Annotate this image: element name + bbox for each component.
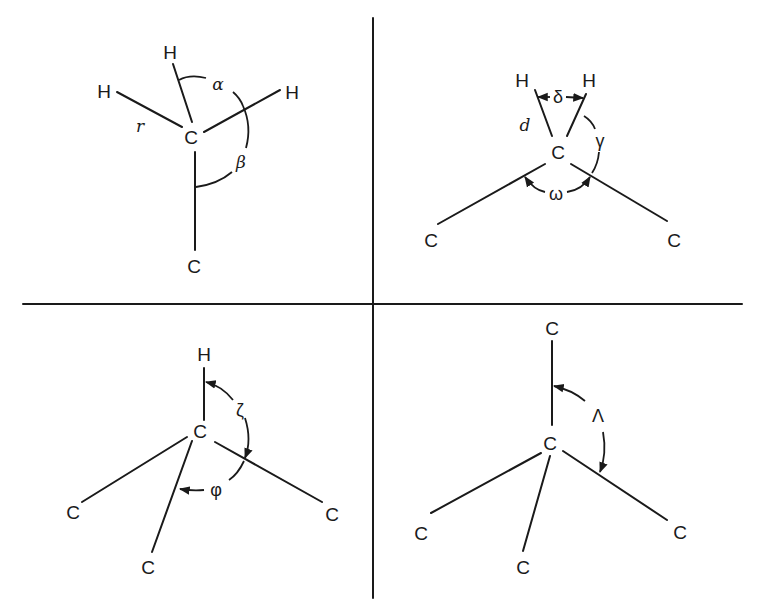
angle-arc-alpha — [179, 76, 206, 80]
bond-c-c-left — [438, 164, 545, 224]
atom-h-top: H — [197, 344, 211, 365]
atom-h-top: H — [163, 42, 177, 63]
angle-arc-gamma-end — [592, 152, 599, 173]
label-delta: δ — [553, 87, 563, 107]
bond-c-h-top — [173, 64, 192, 122]
label-alpha: α — [212, 74, 224, 94]
angle-arrow-delta-right — [566, 97, 583, 98]
label-r: r — [136, 116, 145, 136]
atom-c-center: C — [184, 127, 198, 148]
label-d: d — [520, 115, 531, 135]
bond-c-c-left — [82, 437, 187, 502]
atom-c-right: C — [673, 522, 687, 543]
bond-c-h-left — [117, 92, 182, 127]
label-lambda: Λ — [592, 406, 604, 426]
angle-arc-lambda-upper — [554, 386, 585, 401]
angle-arc-beta-end — [196, 172, 232, 187]
atom-h-left: H — [97, 81, 111, 102]
bond-c-c-bottom — [152, 441, 192, 552]
atom-c-center: C — [543, 433, 557, 454]
label-phi: φ — [210, 480, 222, 500]
panel-methyl: H H H C C r α β — [97, 42, 299, 277]
bond-c-c-right — [215, 442, 322, 502]
bond-c-h-right — [567, 94, 586, 136]
angle-arc-lambda-lower — [600, 432, 604, 472]
atom-h-right: H — [582, 70, 596, 91]
atom-c-bottom: C — [516, 557, 530, 578]
atom-c-center: C — [551, 142, 565, 163]
atom-c-left: C — [414, 523, 428, 544]
angle-arc-phi-right — [229, 461, 244, 480]
atom-c-left: C — [66, 502, 80, 523]
label-omega: ω — [549, 184, 563, 204]
panel-methine: H C C C C ζ φ — [66, 344, 339, 578]
panel-methylene: H H C C C d δ γ ω — [424, 70, 681, 251]
angle-arc-beta — [243, 106, 248, 148]
atom-c-left: C — [424, 230, 438, 251]
angle-arc-zeta — [206, 382, 233, 400]
bond-c-c-right — [571, 164, 667, 221]
angle-arc-omega-left — [525, 177, 545, 192]
atom-h-left: H — [515, 70, 529, 91]
bond-c-c-bottom — [523, 456, 550, 551]
angle-arc-zeta-lower — [245, 418, 249, 458]
label-zeta: ζ — [236, 400, 244, 420]
bond-geometry-diagram: H H H C C r α β H H C C C d δ γ ω — [0, 0, 757, 608]
angle-arc-gamma — [584, 116, 595, 129]
label-beta: β — [235, 152, 246, 172]
atom-c-bottom: C — [141, 557, 155, 578]
atom-c-right: C — [667, 230, 681, 251]
angle-arc-alpha-end — [233, 92, 243, 106]
label-gamma: γ — [596, 131, 605, 151]
panel-quaternary: C C C C C Λ — [414, 318, 687, 578]
bond-c-h-right — [204, 90, 280, 132]
angle-arc-omega-right — [567, 177, 590, 192]
atom-c-bottom: C — [187, 256, 201, 277]
atom-c-top: C — [545, 318, 559, 339]
atom-c-right: C — [325, 504, 339, 525]
atom-h-right: H — [285, 82, 299, 103]
bond-c-c-right — [563, 451, 667, 520]
angle-arc-phi-left — [180, 489, 204, 490]
atom-c-center: C — [193, 421, 207, 442]
bond-c-c-left — [431, 453, 541, 513]
